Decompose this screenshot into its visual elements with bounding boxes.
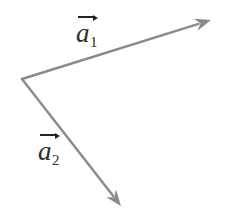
vector-a2-shaft [22, 79, 113, 196]
vector-a1-shaft [22, 24, 199, 79]
vector-label-a2-base: a [38, 136, 52, 166]
vector-label-a1-base: a [76, 18, 90, 48]
vector-arrow-overbar-a2-icon [40, 130, 60, 139]
vector-label-a1: a1 [76, 12, 98, 50]
overbar-arrowhead-a1 [93, 15, 98, 21]
vector-label-a2: a2 [38, 130, 60, 168]
overbar-arrowhead-a2 [55, 133, 60, 139]
vector-label-a1-subscript: 1 [90, 34, 98, 50]
vector-label-a2-glyph: a2 [38, 138, 60, 168]
vector-arrow-overbar-a1-icon [78, 12, 98, 21]
vector-a2-arrowhead [106, 190, 121, 206]
vector-diagram-figure: a1 a2 [0, 0, 226, 209]
vector-canvas [0, 0, 226, 209]
vector-label-a2-subscript: 2 [52, 152, 60, 168]
vector-label-a1-glyph: a1 [76, 20, 98, 50]
